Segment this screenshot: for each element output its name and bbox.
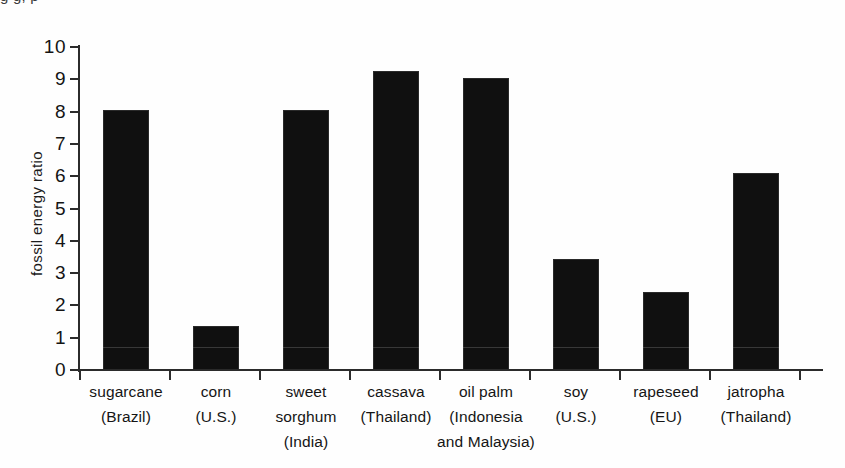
y-tick-mark [70,240,79,242]
scan-seam [643,347,689,348]
y-tick-mark [70,175,79,177]
bar [463,78,509,370]
y-tick-label: 9 [40,69,66,88]
bar [553,259,599,370]
x-axis-label-line: and Malaysia) [427,429,545,454]
y-tick-label: 4 [40,231,66,250]
x-axis-label-line: jatropha [697,379,815,404]
bar [103,110,149,370]
y-tick-mark [70,78,79,80]
y-tick-mark [70,369,79,371]
y-tick-mark [70,304,79,306]
x-axis-label-line: (India) [247,429,365,454]
scan-seam [553,347,599,348]
x-axis-line [78,369,823,371]
bar [193,326,239,370]
y-tick-label: 6 [40,166,66,185]
y-tick-label: 7 [40,134,66,153]
y-tick-mark [70,111,79,113]
y-tick-label: 1 [40,328,66,347]
scan-seam [733,347,779,348]
bar-chart: fossil energy ratio 012345678910 sugarca… [0,0,845,468]
chart-page: g g, p fossil energy ratio 012345678910 … [0,0,845,468]
y-tick-mark [70,337,79,339]
y-tick-label: 8 [40,102,66,121]
bar [643,292,689,370]
y-tick-mark [70,46,79,48]
bar [373,71,419,370]
scan-seam [373,347,419,348]
y-tick-label: 5 [40,199,66,218]
scan-seam [193,347,239,348]
x-axis-label: jatropha(Thailand) [697,379,815,429]
y-tick-label: 3 [40,263,66,282]
x-axis-label-line: (Thailand) [697,404,815,429]
y-tick-label: 0 [40,360,66,379]
y-tick-mark [70,143,79,145]
y-tick-label: 2 [40,295,66,314]
scan-seam [283,347,329,348]
bar [733,173,779,370]
scan-seam [103,347,149,348]
bar [283,110,329,370]
y-tick-label: 10 [40,37,66,56]
scan-seam [463,347,509,348]
y-tick-mark [70,208,79,210]
y-tick-mark [70,272,79,274]
